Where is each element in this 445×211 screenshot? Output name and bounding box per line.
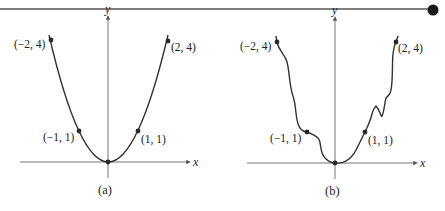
label-1-1: (1, 1) [368, 134, 393, 147]
point-neg1-1 [77, 129, 82, 134]
point-origin [106, 160, 111, 165]
x-axis-label: x [192, 155, 199, 169]
label-neg1-1: (−1, 1) [43, 131, 75, 144]
header-dot-icon [428, 5, 439, 16]
point-neg2-4 [49, 38, 54, 43]
panel-a: x y (−2, 4) (−1, 1) (1, 1) (2, 4) (a) [14, 2, 199, 197]
label-neg2-4: (−2, 4) [240, 40, 272, 53]
caption-a: (a) [98, 183, 112, 197]
point-1-1 [136, 129, 141, 134]
y-axis-label: y [104, 2, 111, 16]
header-rule [0, 5, 439, 16]
point-neg2-4 [275, 40, 280, 45]
point-origin [333, 161, 338, 166]
label-2-4: (2, 4) [398, 42, 423, 55]
label-neg2-4: (−2, 4) [14, 38, 46, 51]
point-1-1 [363, 130, 368, 135]
caption-b: (b) [325, 184, 340, 198]
x-axis-label: x [419, 156, 426, 170]
point-neg1-1 [305, 130, 310, 135]
label-neg1-1: (−1, 1) [270, 132, 302, 145]
panel-b: x y (−2, 4) (−1, 1) (1, 1) (2, 4) (b) [240, 3, 426, 198]
point-2-4 [166, 39, 171, 44]
label-2-4: (2, 4) [171, 41, 196, 54]
figure: x y (−2, 4) (−1, 1) (1, 1) (2, 4) (a) x … [0, 0, 445, 211]
y-axis-label: y [331, 3, 338, 17]
label-1-1: (1, 1) [141, 133, 166, 146]
